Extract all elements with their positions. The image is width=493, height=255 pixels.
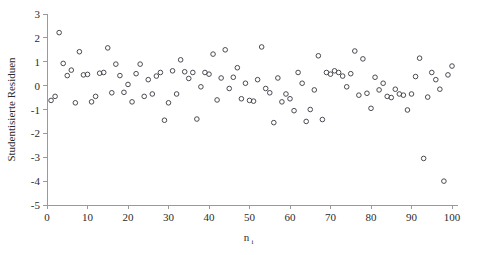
x-tick-label: 40 <box>204 211 216 223</box>
x-tick-label: 70 <box>325 211 337 223</box>
data-point <box>191 70 196 75</box>
data-point <box>105 46 110 51</box>
data-point <box>130 100 135 105</box>
data-point <box>336 70 341 75</box>
x-axis-tick-group: 0102030405060708090100 <box>44 205 461 223</box>
data-point <box>365 91 370 96</box>
data-point <box>158 70 163 75</box>
data-point <box>211 52 216 57</box>
data-point <box>215 98 220 103</box>
data-point <box>438 87 443 92</box>
plot-canvas: 3210-1-2-3-4-5 0102030405060708090100 St… <box>0 0 493 255</box>
data-point <box>219 76 224 81</box>
x-axis-title-subscript: i <box>252 238 254 246</box>
y-tick-label: -3 <box>31 151 41 163</box>
data-point <box>93 94 98 99</box>
data-point <box>320 117 325 122</box>
data-point <box>166 101 171 106</box>
data-point <box>134 71 139 76</box>
y-axis-tick-group: 3210-1-2-3-4-5 <box>31 8 47 211</box>
data-point <box>57 30 62 35</box>
data-point <box>413 74 418 79</box>
data-point <box>114 62 119 67</box>
data-point <box>174 92 179 97</box>
data-point <box>284 92 289 97</box>
y-tick-label: -1 <box>31 104 40 116</box>
data-point <box>182 69 187 74</box>
data-point <box>239 96 244 101</box>
data-point <box>429 70 434 75</box>
x-tick-label: 100 <box>444 211 461 223</box>
data-point <box>199 85 204 90</box>
data-point <box>231 75 236 80</box>
data-point <box>61 61 66 66</box>
data-point <box>235 65 240 70</box>
data-point <box>195 117 200 122</box>
data-point <box>223 48 228 53</box>
data-point <box>308 107 313 112</box>
data-point <box>328 72 333 77</box>
data-point <box>178 58 183 63</box>
data-point <box>259 45 264 50</box>
data-point <box>381 81 386 86</box>
data-point <box>138 62 143 67</box>
data-point <box>304 119 309 124</box>
data-point <box>146 77 151 82</box>
data-point-group <box>49 30 455 183</box>
data-point <box>154 74 159 79</box>
data-point <box>344 85 349 90</box>
x-tick-label: 80 <box>366 211 378 223</box>
data-point <box>446 73 451 78</box>
x-tick-label: 30 <box>163 211 175 223</box>
data-point <box>377 88 382 93</box>
data-point <box>126 82 131 87</box>
y-tick-label: -4 <box>31 175 41 187</box>
y-tick-label: 0 <box>35 80 41 92</box>
data-point <box>296 70 301 75</box>
x-tick-label: 20 <box>123 211 135 223</box>
data-point <box>77 49 82 54</box>
data-point <box>150 92 155 97</box>
y-tick-label: 2 <box>35 32 41 44</box>
data-point <box>348 71 353 76</box>
data-point <box>227 86 232 91</box>
data-point <box>122 90 127 95</box>
data-point <box>207 72 212 77</box>
y-tick-label: -2 <box>31 127 40 139</box>
x-tick-label: 10 <box>82 211 94 223</box>
data-point <box>316 53 321 58</box>
scatter-plot-figure: 3210-1-2-3-4-5 0102030405060708090100 St… <box>0 0 493 255</box>
data-point <box>65 73 70 78</box>
data-point <box>49 98 54 103</box>
data-point <box>405 108 410 113</box>
data-point <box>417 56 422 61</box>
x-axis-title: n <box>244 231 250 243</box>
data-point <box>393 87 398 92</box>
data-point <box>110 90 115 95</box>
data-point <box>255 77 260 82</box>
data-point <box>267 90 272 95</box>
data-point <box>288 96 293 101</box>
data-point <box>421 156 426 161</box>
data-point <box>353 49 358 54</box>
data-point <box>340 74 345 79</box>
data-point <box>300 81 305 86</box>
data-point <box>425 95 430 100</box>
data-point <box>369 106 374 111</box>
data-point <box>89 100 94 105</box>
data-point <box>450 64 455 69</box>
x-tick-label: 50 <box>244 211 256 223</box>
data-point <box>312 88 317 93</box>
data-point <box>409 92 414 97</box>
x-tick-label: 0 <box>44 211 50 223</box>
y-tick-label: -5 <box>31 199 41 211</box>
data-point <box>263 86 268 91</box>
data-point <box>373 75 378 80</box>
data-point <box>272 120 277 125</box>
data-point <box>53 94 58 99</box>
x-tick-label: 60 <box>285 211 297 223</box>
data-point <box>69 68 74 73</box>
y-tick-label: 3 <box>35 8 41 20</box>
data-point <box>276 76 281 81</box>
data-point <box>292 108 297 113</box>
